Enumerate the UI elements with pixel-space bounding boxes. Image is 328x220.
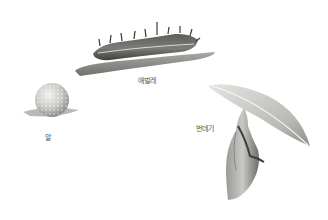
- pupa-label: 번데기: [196, 123, 215, 133]
- pupa-illustration: [208, 84, 310, 200]
- larva-label: 애벌레: [138, 75, 157, 85]
- egg-label: 알: [45, 132, 51, 142]
- larva-illustration: [75, 22, 215, 76]
- life-cycle-illustration: [0, 0, 328, 220]
- egg-illustration: [23, 83, 79, 117]
